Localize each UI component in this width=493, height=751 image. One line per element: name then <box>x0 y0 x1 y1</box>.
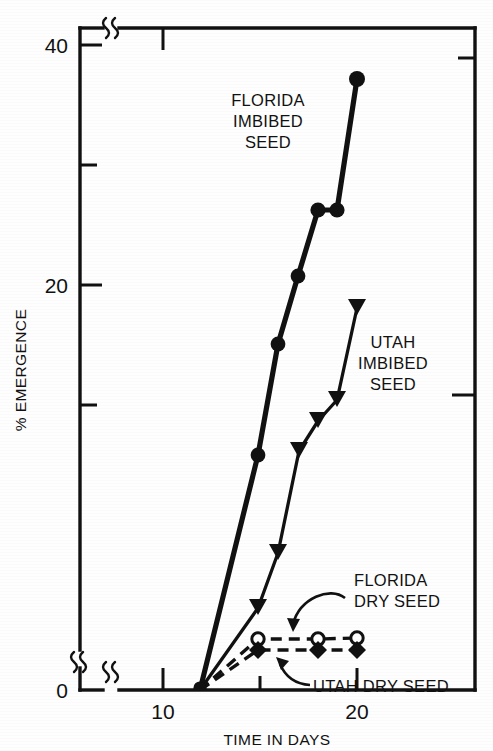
chart-canvas: 40 20 0 10 20 TIME IN DAYS % EMERGENCE F… <box>0 0 493 751</box>
svg-text:SEED: SEED <box>370 375 416 393</box>
y-axis-right-ticks <box>452 58 475 395</box>
y-tick-label-20: 20 <box>45 274 68 297</box>
x-tick-label-20: 20 <box>345 700 368 723</box>
series-line-utah-imbibed <box>200 308 357 690</box>
figure-root: 40 20 0 10 20 TIME IN DAYS % EMERGENCE F… <box>0 0 493 751</box>
svg-text:IMBIBED: IMBIBED <box>233 112 303 130</box>
svg-text:FLORIDA: FLORIDA <box>354 571 428 589</box>
svg-text:UTAH DRY SEED: UTAH DRY SEED <box>313 677 449 695</box>
series-label-florida-imbibed: FLORIDA IMBIBED SEED <box>231 91 305 151</box>
y-tick-label-40: 40 <box>45 34 68 57</box>
axis-break-x-top-icon <box>103 18 118 38</box>
svg-text:IMBIBED: IMBIBED <box>358 354 428 372</box>
svg-text:FLORIDA: FLORIDA <box>231 91 305 109</box>
svg-text:SEED: SEED <box>245 133 291 151</box>
series-markers-utah-dry <box>249 641 366 659</box>
series-utah-imbibed-seed <box>200 299 366 690</box>
series-label-florida-dry: FLORIDA DRY SEED <box>354 571 440 610</box>
y-axis-ticks <box>80 45 102 405</box>
series-label-utah-imbibed: UTAH IMBIBED SEED <box>358 333 428 393</box>
series-line-florida-imbibed <box>200 79 357 690</box>
svg-text:UTAH: UTAH <box>371 333 416 351</box>
x-tick-label-10: 10 <box>151 700 174 723</box>
annotation-arrow-utah-dry <box>276 657 310 685</box>
annotation-arrow-florida-dry <box>287 593 345 632</box>
y-axis-title: % EMERGENCE <box>12 309 29 431</box>
x-axis-title: TIME IN DAYS <box>224 731 331 748</box>
y-tick-label-0: 0 <box>56 679 68 702</box>
svg-text:DRY SEED: DRY SEED <box>354 592 440 610</box>
series-label-utah-dry: UTAH DRY SEED <box>313 677 449 695</box>
axis-break-x-icon <box>103 662 118 682</box>
